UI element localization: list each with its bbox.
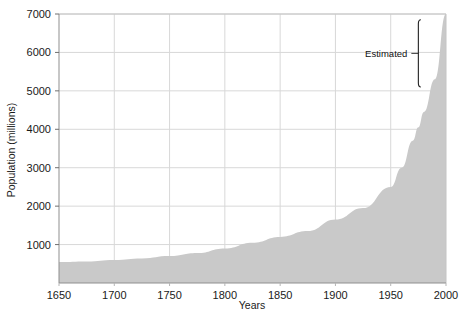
x-tick-label: 1900 <box>323 289 347 301</box>
y-tick-label: 2000 <box>27 200 51 212</box>
y-tick-label: 1000 <box>27 239 51 251</box>
y-tick-label: 3000 <box>27 162 51 174</box>
estimated-annotation-label: Estimated <box>365 48 407 59</box>
x-tick-label: 1650 <box>47 289 71 301</box>
x-tick-label: 2000 <box>434 289 458 301</box>
x-tick-label: 1700 <box>102 289 126 301</box>
x-tick-label: 1850 <box>268 289 292 301</box>
x-tick-label: 1750 <box>157 289 181 301</box>
y-tick-label: 6000 <box>27 46 51 58</box>
y-tick-label: 4000 <box>27 123 51 135</box>
y-axis-title: Population (millions) <box>5 103 17 198</box>
x-axis-title: Years <box>239 299 265 311</box>
x-tick-label: 1800 <box>213 289 237 301</box>
chart-canvas: 1000200030004000500060007000 16501700175… <box>0 0 464 320</box>
y-tick-label: 5000 <box>27 85 51 97</box>
y-tick-label: 7000 <box>27 8 51 20</box>
population-area-chart: 1000200030004000500060007000 16501700175… <box>0 0 464 320</box>
x-tick-label: 1950 <box>378 289 402 301</box>
